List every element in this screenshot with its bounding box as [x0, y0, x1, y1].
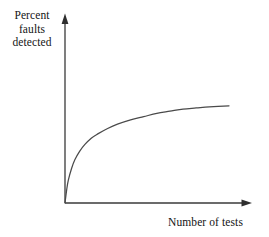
- y-axis-arrowhead-icon: [62, 14, 69, 25]
- figure-canvas: Percent faults detected Number of tests: [0, 0, 269, 237]
- x-axis-label: Number of tests: [168, 216, 243, 230]
- y-axis-label-line-3: detected: [4, 36, 60, 50]
- fault-detection-curve: [65, 106, 229, 203]
- x-axis-arrowhead-icon: [242, 199, 253, 206]
- y-axis-label-line-2: faults: [4, 23, 60, 37]
- y-axis-label: Percent faults detected: [4, 9, 60, 50]
- y-axis-label-line-1: Percent: [4, 9, 60, 23]
